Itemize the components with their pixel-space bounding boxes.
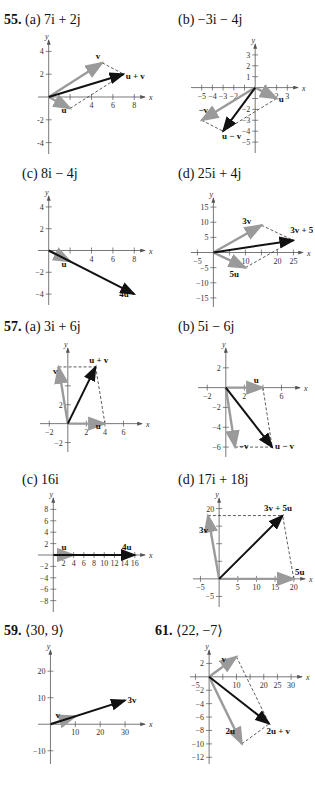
plot-57b: xy−226−6−4−22u−vu − v — [180, 340, 310, 465]
y-tick-label: −2 — [212, 403, 221, 412]
vector-label: u — [96, 421, 101, 431]
vector-label: −v — [239, 441, 249, 451]
plot-57a: xy−2246−22vuu + v — [22, 340, 152, 460]
x-tick-label: 2 — [84, 428, 88, 437]
problem-number: 61. — [155, 623, 173, 638]
heading-59: 59. ⟨30, 9⟩ — [4, 622, 64, 639]
x-tick-label: 6 — [111, 101, 115, 110]
y-tick-label: 10 — [200, 218, 208, 227]
part-label: (c) — [22, 166, 38, 181]
y-tick-label: 2 — [200, 659, 204, 668]
x-axis-label: x — [305, 673, 310, 682]
problem-number: 59. — [4, 623, 22, 638]
x-tick-label: −3 — [219, 92, 228, 101]
vector-label: 3v + 5u — [290, 225, 313, 235]
x-tick-label: 4 — [90, 101, 94, 110]
plot-57d: xy−55101520−5205u3v3v + 5u — [175, 490, 315, 615]
x-tick-label: 8 — [132, 255, 136, 264]
vector-label: u − v — [222, 131, 242, 141]
y-axis-label: y — [44, 32, 49, 41]
y-tick-label: −15 — [196, 294, 209, 303]
part-label: (b) — [178, 12, 194, 27]
y-axis-label: y — [209, 190, 214, 199]
heading-61: 61. ⟨22, −7⟩ — [155, 622, 223, 639]
x-axis-label: x — [148, 93, 153, 102]
x-tick-label: 8 — [92, 559, 96, 568]
vector-3v-5u — [219, 516, 282, 579]
y-tick-label: −4 — [242, 127, 251, 136]
vector-label: 3v — [128, 695, 137, 705]
y-tick-label: 4 — [44, 528, 48, 537]
y-tick-label: −2 — [242, 105, 251, 114]
x-tick-label: 10 — [100, 559, 108, 568]
y-axis-label: y — [46, 642, 51, 651]
y-axis-label: y — [250, 36, 255, 45]
vector-v — [49, 63, 102, 97]
heading-57c: (c) 16i — [22, 472, 59, 488]
x-tick-label: 16 — [131, 559, 139, 568]
x-tick-label: −5 — [197, 92, 206, 101]
x-tick-label: 6 — [279, 392, 283, 401]
part-label: (c) — [22, 472, 38, 487]
dashed-guide — [96, 367, 105, 424]
answer: 5i − 6j — [198, 319, 235, 334]
y-tick-label: −8 — [40, 597, 49, 606]
x-tick-label: 30 — [121, 728, 129, 737]
vector-label: u − v — [275, 441, 295, 451]
vector-label: u — [279, 94, 284, 104]
vector-label: −v — [198, 105, 208, 115]
y-tick-label: -4 — [37, 139, 44, 148]
answer: 16i — [41, 472, 59, 487]
heading-55d: (d) 25i + 4j — [178, 166, 242, 182]
vector-label: 3v + 5u — [264, 503, 292, 513]
vector-label: 3v — [199, 525, 209, 535]
dashed-guide — [202, 120, 223, 131]
y-tick-label: −6 — [40, 585, 49, 594]
y-tick-label: −4 — [35, 290, 44, 299]
y-tick-label: −10 — [192, 740, 205, 749]
problem-number: 55. — [4, 12, 22, 27]
vector-u — [49, 97, 70, 108]
answer: 7i + 2j — [44, 12, 81, 27]
x-tick-label: 14 — [121, 559, 129, 568]
x-tick-label: 3 — [285, 92, 289, 101]
answer: ⟨22, −7⟩ — [176, 623, 223, 638]
answer: ⟨30, 9⟩ — [25, 623, 64, 638]
y-tick-label: 2 — [246, 62, 250, 71]
x-tick-label: 20 — [273, 257, 281, 266]
heading-57a: 57. (a) 3i + 6j — [4, 319, 81, 335]
y-tick-label: −12 — [192, 753, 205, 762]
y-tick-label: 5 — [204, 233, 208, 242]
y-tick-label: 20 — [206, 505, 214, 514]
y-tick-label: −2 — [54, 439, 63, 448]
vector-3v — [208, 516, 219, 579]
y-tick-label: 8 — [44, 505, 48, 514]
y-tick-label: 1 — [246, 73, 250, 82]
vector-label: v — [55, 710, 60, 720]
plot-55b: xy−5−4−3−223−5−4−3−2123u−vu − v — [173, 36, 308, 161]
y-tick-label: −6 — [212, 443, 221, 452]
dashed-guide — [242, 724, 269, 744]
y-tick-label: −4 — [212, 423, 221, 432]
y-tick-label: 4 — [40, 203, 44, 212]
answer: 8i − 4j — [41, 166, 78, 181]
plot-55a: xy468-4-224vuu + v — [20, 32, 155, 162]
vector-label: 2u + v — [266, 726, 290, 736]
x-axis-label: x — [303, 384, 308, 393]
heading-57b: (b) 5i − 6j — [178, 319, 235, 335]
x-axis-label: x — [148, 720, 153, 729]
y-tick-label: 2 — [59, 401, 63, 410]
x-tick-label: 2 — [242, 392, 246, 401]
dashed-guide — [102, 63, 123, 74]
x-tick-label: 4 — [72, 559, 76, 568]
y-tick-label: −2 — [40, 562, 49, 571]
x-tick-label: −5 — [196, 583, 205, 592]
y-tick-label: −2 — [196, 686, 205, 695]
y-tick-label: 4 — [40, 47, 44, 56]
plot-55c: xy468−4−2244uu — [20, 188, 155, 313]
x-tick-label: 25 — [273, 681, 281, 690]
vector-label: v — [221, 654, 226, 664]
vector-label: v — [96, 51, 101, 61]
y-tick-label: 2 — [217, 364, 221, 373]
vector-label: u + v — [126, 71, 146, 81]
